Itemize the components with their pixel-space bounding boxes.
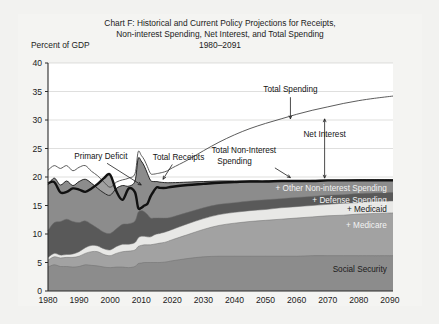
x-tick-2050: 2050 — [256, 295, 275, 305]
x-tick-2040: 2040 — [225, 295, 244, 305]
x-tick-1990: 1990 — [70, 295, 89, 305]
chart-title-line2: Non-interest Spending, Net Interest, and… — [116, 29, 324, 39]
annotation-total-noninterest-spending-line2: Spending — [217, 157, 252, 166]
y-tick-35: 35 — [32, 87, 42, 97]
area-label-social-security: Social Security — [333, 265, 388, 274]
annotation-total-spending: Total Spending — [263, 85, 318, 94]
y-tick-20: 20 — [32, 172, 42, 182]
area-label-medicaid: + Medicaid — [347, 205, 387, 214]
x-tick-2010: 2010 — [132, 295, 151, 305]
y-tick-10: 10 — [32, 229, 42, 239]
area-label-other-noninterest-spending: + Other Non-interest Spending — [276, 184, 388, 193]
y-tick-25: 25 — [32, 144, 42, 154]
y-axis-label: Percent of GDP — [31, 40, 90, 50]
annotation-total-noninterest-spending-line1: Total Non-Interest — [211, 146, 276, 155]
chart-canvas: Chart F: Historical and Current Policy P… — [18, 14, 422, 306]
y-tick-30: 30 — [32, 115, 42, 125]
chart-figure: Chart F: Historical and Current Policy P… — [18, 14, 422, 306]
x-tick-2060: 2060 — [287, 295, 306, 305]
y-tick-5: 5 — [37, 258, 42, 268]
y-tick-15: 15 — [32, 201, 42, 211]
x-tick-2070: 2070 — [318, 295, 337, 305]
chart-page: Chart F: Historical and Current Policy P… — [0, 0, 439, 324]
x-tick-2030: 2030 — [194, 295, 213, 305]
x-tick-1980: 1980 — [38, 295, 57, 305]
chart-subtitle: 1980–2091 — [199, 40, 241, 50]
area-label-medicare: + Medicare — [346, 221, 387, 230]
x-tick-2090: 2090 — [380, 295, 399, 305]
x-tick-2020: 2020 — [163, 295, 182, 305]
annotation-primary-deficit: Primary Deficit — [74, 152, 128, 161]
annotation-total-receipts: Total Receipts — [153, 153, 204, 162]
y-tick-40: 40 — [32, 58, 42, 68]
chart-title-line1: Chart F: Historical and Current Policy P… — [104, 18, 335, 28]
x-tick-2080: 2080 — [349, 295, 368, 305]
x-tick-2000: 2000 — [101, 295, 120, 305]
